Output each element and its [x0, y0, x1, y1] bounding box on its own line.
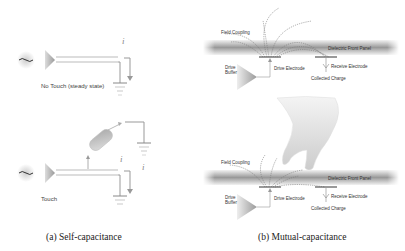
- caption-mutual-capacitance: (b) Mutual-capacitance: [258, 232, 346, 242]
- touch-circuit: [17, 122, 151, 204]
- current-label-bottom: i: [120, 154, 123, 164]
- touch-label: Touch: [41, 196, 57, 202]
- current-label-finger: i: [142, 162, 145, 172]
- mutual-capacitance-diagram: [195, 0, 405, 251]
- receive-electrode-label: Receive Electrode: [331, 194, 368, 199]
- collected-charge-label: Collected Charge: [311, 76, 346, 81]
- no-touch-label: No Touch (steady state): [41, 83, 104, 89]
- drive-buffer-icon: [237, 64, 257, 90]
- self-capacitance-panel: i i i No Touch (steady state) Touch (a) …: [0, 0, 195, 251]
- drive-buffer-label: Drive Buffer: [225, 65, 239, 75]
- buffer-triangle-icon: [45, 163, 55, 183]
- buffer-triangle-icon: [45, 50, 55, 70]
- dielectric-panel-label: Dielectric Front Panel: [328, 176, 371, 181]
- drive-electrode-label: Drive Electrode: [274, 196, 305, 201]
- finger-icon: [87, 127, 115, 153]
- drive-electrode-label: Drive Electrode: [274, 66, 305, 71]
- collected-charge-label: Collected Charge: [311, 206, 346, 211]
- field-coupling-label: Field Coupling: [221, 30, 250, 35]
- self-capacitance-diagram: [0, 0, 195, 251]
- dielectric-panel-label: Dielectric Front Panel: [328, 46, 371, 51]
- hand-icon: [277, 97, 339, 171]
- receive-electrode-label: Receive Electrode: [331, 64, 368, 69]
- mutual-capacitance-panel: Field Coupling Dielectric Front Panel Dr…: [195, 0, 405, 251]
- drive-buffer-icon: [237, 194, 257, 220]
- caption-self-capacitance: (a) Self-capacitance: [46, 232, 122, 242]
- current-label-top: i: [122, 36, 125, 46]
- field-coupling-label: Field Coupling: [221, 160, 250, 165]
- drive-buffer-label: Drive Buffer: [225, 195, 239, 205]
